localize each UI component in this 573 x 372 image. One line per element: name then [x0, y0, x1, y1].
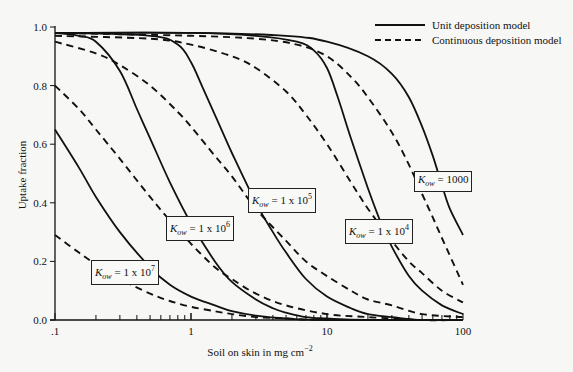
- kow-label: Kow = 1000: [414, 171, 472, 192]
- y-tick-label: 0.6: [33, 138, 47, 150]
- kow-subscript: ow: [356, 231, 365, 240]
- kow-label: Kow = 1 x 104: [345, 219, 413, 244]
- x-axis-title: Soil on skin in mg cm−2: [207, 344, 312, 358]
- x-axis-title-sup: −2: [304, 344, 313, 353]
- kow-subscript: ow: [102, 272, 111, 281]
- x-axis-title-main: Soil on skin in mg cm: [207, 346, 304, 358]
- y-tick-label: 0.0: [33, 314, 47, 326]
- kow-value: = 1 x 10: [187, 222, 226, 234]
- x-tick-label: 1: [188, 325, 194, 337]
- kow-value: = 1 x 10: [366, 225, 405, 237]
- y-tick-label: 0.8: [33, 80, 47, 92]
- kow-exponent: 7: [151, 264, 155, 273]
- x-tick-label: 100: [455, 325, 472, 337]
- kow-subscript: ow: [425, 179, 434, 188]
- y-axis-title: Uptake fraction: [16, 140, 28, 209]
- kow-label: Kow = 1 x 107: [91, 260, 159, 285]
- kow-subscript: ow: [259, 200, 268, 209]
- uptake-fraction-chart: 0.00.20.40.60.81.0.1110100 Unit depositi…: [0, 0, 573, 372]
- kow-exponent: 5: [308, 192, 312, 201]
- legend-unit-deposition: Unit deposition model: [432, 19, 530, 31]
- y-tick-label: 0.4: [33, 197, 47, 209]
- legend-continuous-deposition: Continuous deposition model: [432, 34, 562, 46]
- kow-label: Kow = 1 x 105: [248, 188, 316, 213]
- x-tick-label: .1: [51, 325, 59, 337]
- kow-value: = 1 x 10: [269, 194, 308, 206]
- x-tick-label: 10: [322, 325, 334, 337]
- y-tick-label: 1.0: [33, 21, 47, 33]
- axes: 0.00.20.40.60.81.0.1110100: [33, 21, 472, 337]
- y-tick-label: 0.2: [33, 255, 47, 267]
- kow-label: Kow = 1 x 106: [166, 216, 234, 241]
- legend: Unit deposition model Continuous deposit…: [375, 19, 562, 46]
- kow-value: = 1 x 10: [112, 266, 151, 278]
- kow-value: = 1000: [435, 173, 469, 185]
- kow-subscript: ow: [177, 228, 186, 237]
- kow-exponent: 6: [226, 220, 230, 229]
- kow-exponent: 4: [405, 223, 409, 232]
